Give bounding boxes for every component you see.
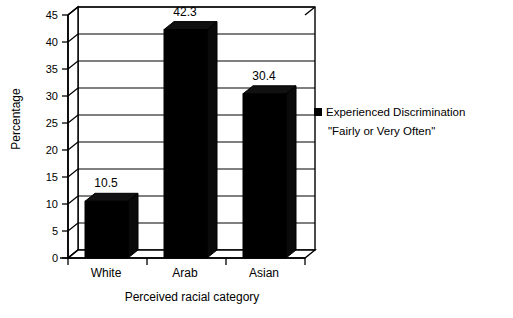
x-axis-title: Perceived racial category <box>68 290 316 304</box>
y-tick-label-25: 25 <box>20 117 58 129</box>
value-label-white: 10.5 <box>76 176 136 190</box>
y-tick-label-15: 15 <box>20 171 58 183</box>
y-tick-label-0: 0 <box>20 252 58 264</box>
y-tick-label-5: 5 <box>20 225 58 237</box>
x-category-label-arab: Arab <box>155 266 215 280</box>
legend-label-line2-wrap: "Fairly or Very Often" <box>314 121 510 139</box>
plot-left-wall <box>68 7 78 258</box>
bar-white-front <box>85 201 128 258</box>
x-category-label-white: White <box>76 266 136 280</box>
chart-legend: Experienced Discrimination "Fairly or Ve… <box>314 106 510 139</box>
value-label-arab: 42.3 <box>155 5 215 19</box>
bar-arab <box>164 22 217 258</box>
legend-label-line1: Experienced Discrimination <box>326 106 465 118</box>
y-tick-label-45: 45 <box>20 9 58 21</box>
x-axis-ticks <box>68 258 305 265</box>
bar-arab-front <box>164 30 207 258</box>
bar-white-side <box>128 193 138 258</box>
legend-swatch-icon <box>314 108 322 116</box>
bar-arab-side <box>207 22 217 258</box>
y-tick-label-10: 10 <box>20 198 58 210</box>
y-tick-label-35: 35 <box>20 63 58 75</box>
y-tick-label-30: 30 <box>20 90 58 102</box>
x-category-label-asian: Asian <box>234 266 294 280</box>
y-tick-label-20: 20 <box>20 144 58 156</box>
value-label-asian: 30.4 <box>234 69 294 83</box>
bar-asian-side <box>286 86 296 258</box>
legend-item-discrimination: Experienced Discrimination <box>314 106 510 118</box>
bar-white <box>85 193 138 258</box>
bar-chart-figure: 45 40 35 30 25 20 15 10 5 0 10.5 42.3 30… <box>0 0 513 318</box>
bar-asian-front <box>243 94 286 258</box>
y-axis-title: Percentage <box>9 79 23 159</box>
y-tick-label-40: 40 <box>20 36 58 48</box>
legend-label-line2: "Fairly or Very Often" <box>328 125 435 137</box>
bar-asian <box>243 86 296 258</box>
